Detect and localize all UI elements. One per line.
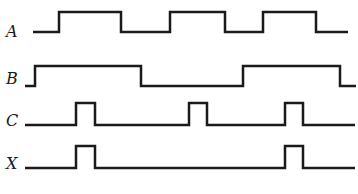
signal-x-waveform bbox=[25, 146, 355, 168]
timing-diagram: A B C X bbox=[0, 0, 358, 194]
signal-b-waveform bbox=[25, 66, 356, 86]
signal-c-label: C bbox=[6, 113, 18, 129]
signal-x-label: X bbox=[6, 156, 17, 172]
signal-a-waveform bbox=[33, 12, 348, 32]
signal-a-label: A bbox=[6, 24, 18, 40]
signal-c-waveform bbox=[25, 103, 355, 125]
signal-b-label: B bbox=[6, 71, 18, 87]
waveforms bbox=[0, 0, 358, 194]
